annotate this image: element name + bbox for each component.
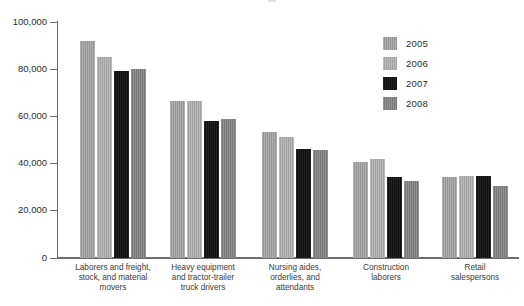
y-axis-tick-label: 60,000 (0, 110, 47, 121)
legend-item-2008: 2008 (383, 94, 428, 112)
y-axis-tick-label: 40,000 (0, 157, 47, 168)
scan-crop-artifact (268, 0, 276, 2)
legend-item-2007: 2007 (383, 74, 428, 92)
legend-item-2006: 2006 (383, 54, 428, 72)
bar-2006-group-3 (279, 137, 294, 257)
x-axis-label-group-2: Heavy equipment and tractor-trailer truc… (151, 263, 255, 294)
legend: 2005200620072008 (383, 34, 428, 114)
bar-2006-group-1 (97, 57, 112, 257)
y-axis-tick-label: 80,000 (0, 63, 47, 74)
bar-2008-group-5 (493, 186, 508, 258)
bar-chart: 020,00040,00060,00080,000100,000 Laborer… (0, 0, 524, 306)
bar-2007-group-4 (387, 177, 402, 257)
bar-2008-group-2 (221, 119, 236, 258)
bar-2005-group-5 (442, 177, 457, 257)
bar-2007-group-2 (204, 121, 219, 258)
x-axis-label-group-3: Nursing aides, orderlies, and attendants (247, 263, 343, 294)
y-axis-tick-label: 0 (0, 252, 47, 263)
y-axis-tick-label: 20,000 (0, 204, 47, 215)
bar-2006-group-5 (459, 176, 474, 257)
legend-item-2005: 2005 (383, 34, 428, 52)
bar-2006-group-2 (187, 101, 202, 258)
legend-label: 2007 (406, 78, 428, 89)
plot-area (57, 18, 519, 261)
bar-2008-group-4 (404, 181, 419, 258)
legend-label: 2005 (406, 38, 428, 49)
y-axis-tick-label: 100,000 (0, 16, 47, 27)
bar-2005-group-3 (262, 132, 277, 258)
x-axis-label-group-4: Construction laborers (340, 263, 432, 283)
bar-2008-group-1 (131, 69, 146, 257)
legend-swatch-2007 (383, 77, 397, 90)
legend-label: 2006 (406, 58, 428, 69)
x-axis-label-group-5: Retail salespersons (427, 263, 523, 283)
bar-2005-group-4 (353, 162, 368, 257)
bar-2007-group-1 (114, 71, 129, 257)
bar-2005-group-2 (170, 101, 185, 258)
legend-swatch-2008 (383, 97, 397, 110)
bar-2008-group-3 (313, 150, 328, 257)
bar-2005-group-1 (80, 41, 95, 258)
bar-2007-group-5 (476, 176, 491, 257)
legend-swatch-2006 (383, 57, 397, 70)
bar-2007-group-3 (296, 149, 311, 257)
legend-swatch-2005 (383, 37, 397, 50)
bar-2006-group-4 (370, 159, 385, 258)
legend-label: 2008 (406, 98, 428, 109)
